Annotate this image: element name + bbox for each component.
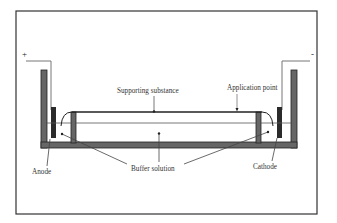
electrophoresis-diagram: + - Application point Supporting substan…	[0, 0, 337, 223]
left-strip-end	[61, 112, 72, 126]
buffer-solution-label: Buffer solution	[131, 165, 175, 173]
supporting-substance-dot	[153, 110, 155, 112]
buffer-pointer-left-dot	[61, 133, 63, 135]
cathode-pointer	[272, 138, 277, 161]
supporting-substance-label: Supporting substance	[117, 87, 179, 95]
tank-right-wall	[291, 70, 297, 148]
right-divider	[256, 112, 261, 143]
anode-electrode	[51, 107, 56, 138]
tank-left-wall	[41, 70, 47, 148]
application-point-label: Application point	[227, 84, 278, 92]
cathode-label: Cathode	[253, 163, 277, 171]
anode-label: Anode	[32, 168, 51, 176]
application-point-arrowhead	[236, 108, 239, 112]
right-strip-end	[262, 112, 273, 126]
buffer-pointer-center-dot	[158, 132, 160, 134]
cathode-electrode	[277, 107, 282, 138]
buffer-pointer-right-dot	[267, 131, 269, 133]
plus-sign: +	[22, 49, 27, 59]
minus-sign: -	[311, 49, 314, 59]
buffer-pointer-left	[62, 134, 127, 164]
